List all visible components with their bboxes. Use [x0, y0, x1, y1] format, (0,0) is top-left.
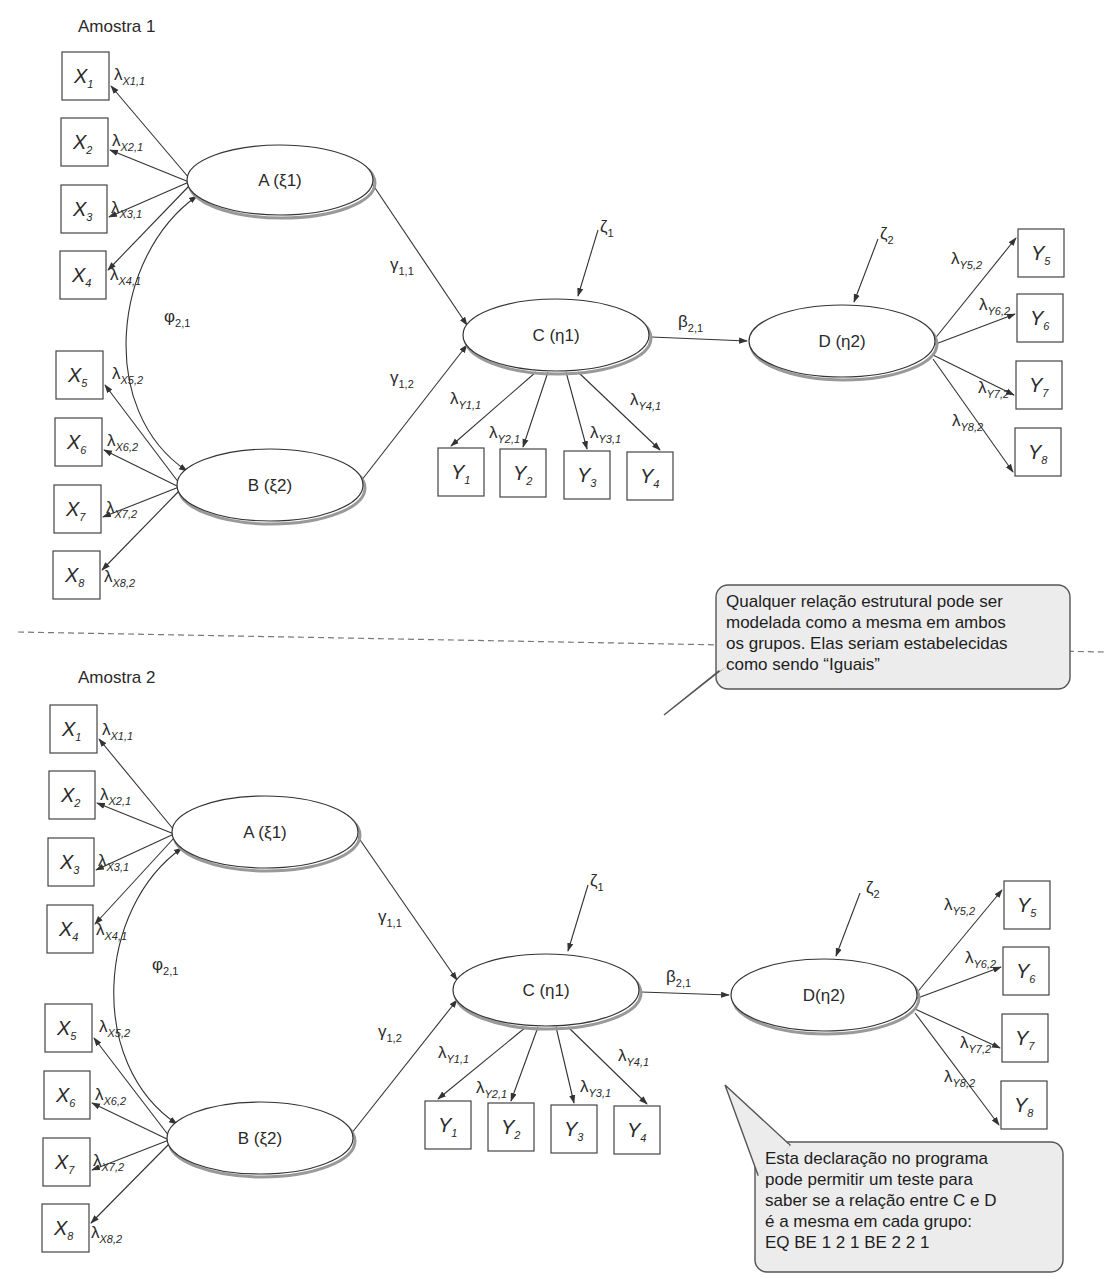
loading-label-y3: λY3,1 [590, 423, 621, 445]
loading-label-x1: λX1,1 [114, 65, 145, 87]
loading-label-y1: λY1,1 [450, 389, 481, 411]
disturbance-zeta2-label: ζ2 [880, 224, 894, 246]
loading-edge-y8 [933, 359, 1013, 472]
loading-edge-x1 [111, 86, 189, 178]
path-gamma11-label: γ1,1 [390, 255, 414, 277]
path-gamma12-label: γ1,2 [390, 368, 414, 390]
loading-label-y4: λY4,1 [630, 390, 661, 412]
disturbance-zeta1-edge [578, 230, 598, 296]
disturbance-zeta1-edge [568, 885, 588, 951]
loading-label-x1: λX1,1 [102, 720, 133, 742]
disturbance-zeta2-edge [836, 893, 860, 956]
loading-label-y6: λY6,2 [979, 295, 1010, 317]
path-beta21-edge [651, 337, 747, 341]
callout-equal-structural: Qualquer relação estrutural pode sermode… [664, 585, 1070, 715]
loading-label-y3: λY3,1 [580, 1077, 611, 1099]
loading-label-y8: λY8,2 [952, 411, 983, 433]
callout-text-line: é a mesma em cada grupo: [765, 1212, 972, 1231]
loading-label-x6: λX6,2 [107, 431, 138, 453]
loading-label-y5: λY5,2 [944, 895, 975, 917]
loading-label-y4: λY4,1 [618, 1046, 649, 1068]
path-gamma11-edge [371, 182, 467, 325]
sample-title: Amostra 1 [78, 17, 155, 36]
callout-text-line: EQ BE 1 2 1 BE 2 2 1 [765, 1233, 929, 1252]
callout-text-line: pode permitir um teste para [765, 1170, 973, 1189]
loading-edge-x4 [95, 838, 174, 924]
latent-b-label: B (ξ2) [248, 476, 292, 495]
callout-text-line: Qualquer relação estrutural pode ser [726, 592, 1003, 611]
covariance-phi21-label: φ2,1 [152, 955, 178, 977]
callout-text-line: saber se a relação entre C e D [765, 1191, 997, 1210]
path-gamma11-edge [356, 834, 457, 980]
loading-edge-y3 [556, 1027, 574, 1103]
loading-label-x7: λX7,2 [106, 498, 137, 520]
latent-c-label: C (η1) [532, 326, 579, 345]
callout-text-line: os grupos. Elas seriam estabelecidas [726, 634, 1008, 653]
path-beta21-edge [641, 992, 729, 995]
loading-label-x4: λX4,1 [110, 265, 141, 287]
loading-edge-x5 [94, 1038, 169, 1136]
loading-label-x3: λX3,1 [111, 198, 142, 220]
covariance-phi21-edge [114, 848, 182, 1124]
loading-label-x2: λX2,1 [112, 131, 143, 153]
loading-edge-y2 [523, 372, 548, 447]
loading-label-y7: λY7,2 [978, 378, 1009, 400]
loading-edge-y6 [933, 314, 1015, 345]
loading-label-y1: λY1,1 [438, 1043, 469, 1065]
loading-edge-y3 [566, 372, 587, 449]
loading-label-x5: λX5,2 [99, 1017, 130, 1039]
covariance-phi21-label: φ2,1 [164, 307, 190, 329]
loading-edge-y8 [915, 1013, 999, 1125]
loading-edge-x4 [108, 186, 189, 270]
loading-edge-x2 [97, 803, 174, 834]
loading-label-x7: λX7,2 [93, 1151, 124, 1173]
sem-multigroup-diagram: Amostra 1A (ξ1)B (ξ2)C (η1)D (η2)X1λX1,1… [0, 0, 1111, 1279]
latent-d-label: D(η2) [803, 986, 846, 1005]
callout-text-line: modelada como a mesma em ambos [726, 613, 1006, 632]
loading-label-x3: λX3,1 [98, 851, 129, 873]
disturbance-zeta1-label: ζ1 [590, 871, 604, 893]
covariance-phi21-edge [126, 196, 197, 471]
loading-label-x2: λX2,1 [100, 785, 131, 807]
loading-edge-x8 [91, 1144, 169, 1223]
path-beta21-label: β2,1 [666, 967, 691, 989]
loading-edge-x2 [110, 150, 189, 182]
callout-text-line: Esta declaração no programa [765, 1149, 989, 1168]
loading-label-x4: λX4,1 [96, 920, 127, 942]
loading-label-x6: λX6,2 [95, 1085, 126, 1107]
latent-b-label: B (ξ2) [238, 1129, 282, 1148]
disturbance-zeta2-label: ζ2 [866, 878, 880, 900]
loading-label-y8: λY8,2 [944, 1067, 975, 1089]
loading-label-y2: λY2,1 [476, 1078, 507, 1100]
callout-text-line: como sendo “Iguais” [726, 655, 880, 674]
latent-c-label: C (η1) [522, 981, 569, 1000]
path-beta21-label: β2,1 [678, 312, 703, 334]
disturbance-zeta2-edge [854, 239, 878, 302]
loading-edge-y6 [915, 967, 1001, 999]
latent-a-label: A (ξ1) [243, 823, 287, 842]
loading-label-y6: λY6,2 [965, 948, 996, 970]
loading-label-x8: λX8,2 [104, 567, 135, 589]
path-gamma11-label: γ1,1 [378, 907, 402, 929]
sample-title: Amostra 2 [78, 668, 155, 687]
loading-label-y5: λY5,2 [951, 249, 982, 271]
loading-edge-y5 [933, 238, 1016, 341]
latent-a-label: A (ξ1) [258, 171, 302, 190]
path-gamma12-label: γ1,2 [378, 1022, 402, 1044]
loading-edge-y2 [511, 1027, 538, 1101]
latent-d-label: D (η2) [818, 332, 865, 351]
loading-label-y2: λY2,1 [489, 423, 520, 445]
disturbance-zeta1-label: ζ1 [600, 217, 614, 239]
loading-edge-x1 [99, 739, 174, 830]
loading-label-x8: λX8,2 [91, 1223, 122, 1245]
